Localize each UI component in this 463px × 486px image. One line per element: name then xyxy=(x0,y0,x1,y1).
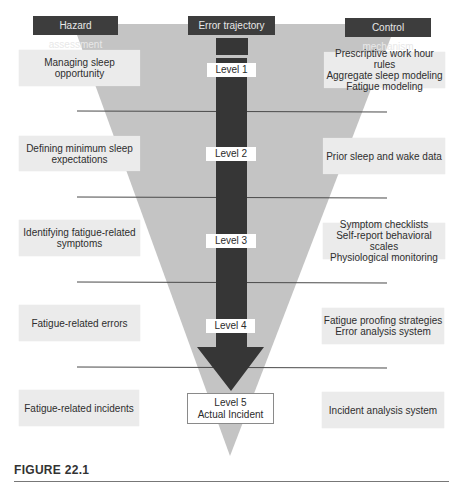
header-hazard-assessment: Hazard assessment xyxy=(33,16,118,35)
hazard-box-level-2: Defining minimum sleep expectations xyxy=(19,136,140,171)
arrow-top-block xyxy=(216,38,248,55)
header-error-trajectory: Error trajectory xyxy=(188,16,275,35)
level-4-label: Level 4 xyxy=(206,319,255,333)
hazard-box-level-4: Fatigue-related errors xyxy=(19,305,140,341)
figure-caption: FIGURE 22.1 xyxy=(14,463,89,477)
control-box-level-2: Prior sleep and wake data xyxy=(323,138,445,174)
hazard-box-level-3: Identifying fatigue-related symptoms xyxy=(19,220,140,256)
level-2-label: Level 2 xyxy=(206,147,256,161)
level-5-actual-incident-label: Level 5 Actual Incident xyxy=(187,393,274,424)
control-box-level-5: Incident analysis system xyxy=(322,392,444,428)
level-3-label: Level 3 xyxy=(206,234,256,248)
level-1-label: Level 1 xyxy=(207,63,256,77)
control-box-level-1: Prescriptive work hour rules Aggregate s… xyxy=(324,52,445,88)
control-box-level-4: Fatigue proofing strategies Error analys… xyxy=(322,308,444,344)
header-control-mechanism: Control mechanism xyxy=(345,18,431,37)
caption-rule xyxy=(14,481,449,482)
control-box-level-3: Symptom checklists Self-report behaviora… xyxy=(323,223,445,259)
hazard-box-level-1: Managing sleep opportunity xyxy=(19,50,140,86)
hazard-box-level-5: Fatigue-related incidents xyxy=(19,390,139,426)
